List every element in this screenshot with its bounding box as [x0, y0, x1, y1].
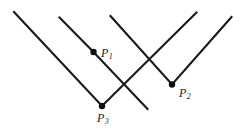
figure-background	[0, 0, 243, 133]
vertex-marker-p1	[90, 49, 96, 55]
vertex-marker-p3	[99, 103, 105, 109]
figure-container: P1 P2 P3	[0, 0, 243, 133]
vertex-label-p3-subscript: 3	[105, 117, 109, 126]
vertex-label-p3-base: P	[97, 111, 104, 125]
vertex-label-p2: P2	[179, 87, 190, 99]
vertex-label-p3: P3	[97, 112, 108, 124]
vertex-label-p2-subscript: 2	[187, 92, 191, 101]
diagram-canvas	[0, 0, 243, 133]
vertex-marker-p2	[169, 81, 175, 87]
vertex-label-p1: P1	[101, 47, 112, 59]
vertex-label-p1-base: P	[101, 46, 108, 60]
vertex-label-p2-base: P	[179, 86, 186, 100]
vertex-label-p1-subscript: 1	[109, 52, 113, 61]
